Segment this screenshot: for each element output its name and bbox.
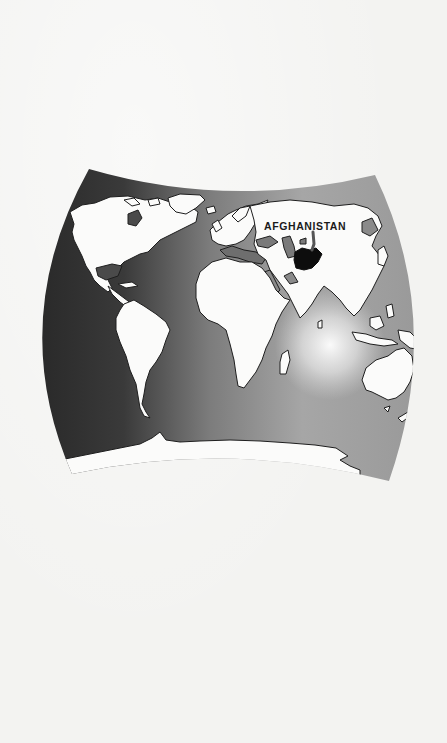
country-label: AFGHANISTAN (264, 220, 346, 232)
iceland (206, 206, 216, 214)
philippines (386, 304, 394, 318)
world-map-figure: AFGHANISTAN (0, 0, 447, 743)
world-map (0, 0, 447, 743)
pointer-arrow-icon (312, 232, 314, 250)
scanned-page: AFGHANISTAN (0, 0, 447, 743)
sri-lanka (318, 320, 322, 328)
